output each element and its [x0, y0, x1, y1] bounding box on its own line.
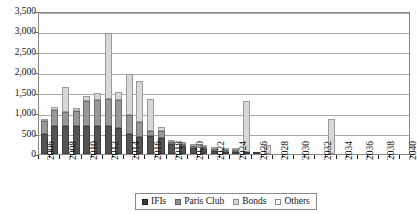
bar-segment-bonds [115, 92, 122, 99]
y-axis-tick [34, 155, 38, 156]
x-axis-tick-label: 2016 [154, 141, 164, 160]
legend-label: IFIs [151, 197, 166, 207]
bar-segment-bonds [94, 93, 101, 100]
bar-segment-bonds [147, 99, 154, 131]
bar-segment-paris-club [115, 100, 122, 128]
legend-item-paris-club: Paris Club [175, 197, 224, 207]
legend-swatch-icon [275, 199, 281, 205]
bar-segment-paris-club [158, 131, 165, 138]
bar-segment-paris-club [62, 112, 69, 126]
bar-2012 [105, 33, 112, 154]
y-axis-tick [34, 94, 38, 95]
x-axis-tick-label: 2040 [409, 141, 417, 160]
x-axis-tick-label: 2024 [239, 141, 249, 160]
x-axis-tick-label: 2018 [175, 141, 185, 160]
legend-label: Others [284, 197, 309, 207]
x-axis-tick [208, 155, 209, 159]
x-axis-tick [187, 155, 188, 159]
y-axis-tick [34, 32, 38, 33]
stacked-bar-chart: IFIsParis ClubBondsOthers 05001,0001,500… [0, 0, 417, 214]
x-axis-tick-label: 2028 [281, 141, 291, 160]
x-axis-tick-label: 2022 [217, 141, 227, 160]
bar-segment-paris-club [105, 99, 112, 126]
bar-segment-bonds [126, 74, 133, 115]
bar-segment-paris-club [136, 122, 143, 137]
y-axis-tick-label: 2,000 [2, 68, 36, 78]
x-axis-tick-label: 2034 [345, 141, 355, 160]
bar-segment-paris-club [51, 110, 58, 126]
y-axis-tick-label: 3,500 [2, 7, 36, 17]
x-axis-tick-label: 2020 [196, 141, 206, 160]
legend-swatch-icon [175, 199, 181, 205]
x-axis-tick [144, 155, 145, 159]
y-axis-tick [34, 53, 38, 54]
x-axis-tick [272, 155, 273, 159]
x-axis-tick [81, 155, 82, 159]
y-axis-tick [34, 73, 38, 74]
legend-item-others: Others [275, 197, 309, 207]
y-axis-tick [34, 12, 38, 13]
y-axis-tick [34, 135, 38, 136]
x-axis-tick [59, 155, 60, 159]
y-axis-tick-label: 1,000 [2, 109, 36, 119]
legend-swatch-icon [142, 199, 148, 205]
y-axis-tick-label: 2,500 [2, 48, 36, 58]
x-axis-tick [399, 155, 400, 159]
bar-segment-paris-club [126, 115, 133, 134]
plot-area [38, 12, 410, 155]
y-axis-tick-label: 3,000 [2, 27, 36, 37]
gridline [39, 53, 409, 54]
x-axis-tick [378, 155, 379, 159]
x-axis-tick [166, 155, 167, 159]
bar-segment-bonds [62, 87, 69, 112]
x-axis-tick [251, 155, 252, 159]
bar-segment-paris-club [41, 121, 48, 133]
x-axis-tick-label: 2006 [47, 141, 57, 160]
bar-segment-bonds [105, 33, 112, 99]
x-axis-tick [293, 155, 294, 159]
x-axis-tick [38, 155, 39, 159]
y-axis-tick [34, 114, 38, 115]
x-axis-tick-label: 2036 [366, 141, 376, 160]
y-axis-tick-label: 1,500 [2, 89, 36, 99]
x-axis-tick [102, 155, 103, 159]
legend-label: Bonds [242, 197, 266, 207]
legend-item-ifis: IFIs [142, 197, 166, 207]
gridline [39, 13, 409, 14]
legend-item-bonds: Bonds [233, 197, 266, 207]
y-axis-tick-label: 0 [2, 150, 36, 160]
x-axis-tick [229, 155, 230, 159]
legend-swatch-icon [233, 199, 239, 205]
x-axis-tick-label: 2038 [387, 141, 397, 160]
bar-segment-paris-club [73, 111, 80, 126]
x-axis-tick-label: 2010 [90, 141, 100, 160]
bar-segment-paris-club [94, 100, 101, 126]
x-axis-tick [314, 155, 315, 159]
x-axis-tick [336, 155, 337, 159]
bar-segment-bonds [136, 81, 143, 121]
gridline [39, 74, 409, 75]
y-axis-tick-label: 500 [2, 130, 36, 140]
chart-legend: IFIsParis ClubBondsOthers [135, 193, 317, 210]
x-axis-tick-label: 2032 [324, 141, 334, 160]
x-axis-tick-label: 2012 [111, 141, 121, 160]
bar-segment-paris-club [83, 101, 90, 126]
x-axis-tick-label: 2030 [302, 141, 312, 160]
legend-label: Paris Club [184, 197, 224, 207]
x-axis-tick-label: 2008 [69, 141, 79, 160]
x-axis-tick-label: 2026 [260, 141, 270, 160]
x-axis-tick-label: 2014 [132, 141, 142, 160]
x-axis-tick [123, 155, 124, 159]
gridline [39, 33, 409, 34]
x-axis-tick [357, 155, 358, 159]
